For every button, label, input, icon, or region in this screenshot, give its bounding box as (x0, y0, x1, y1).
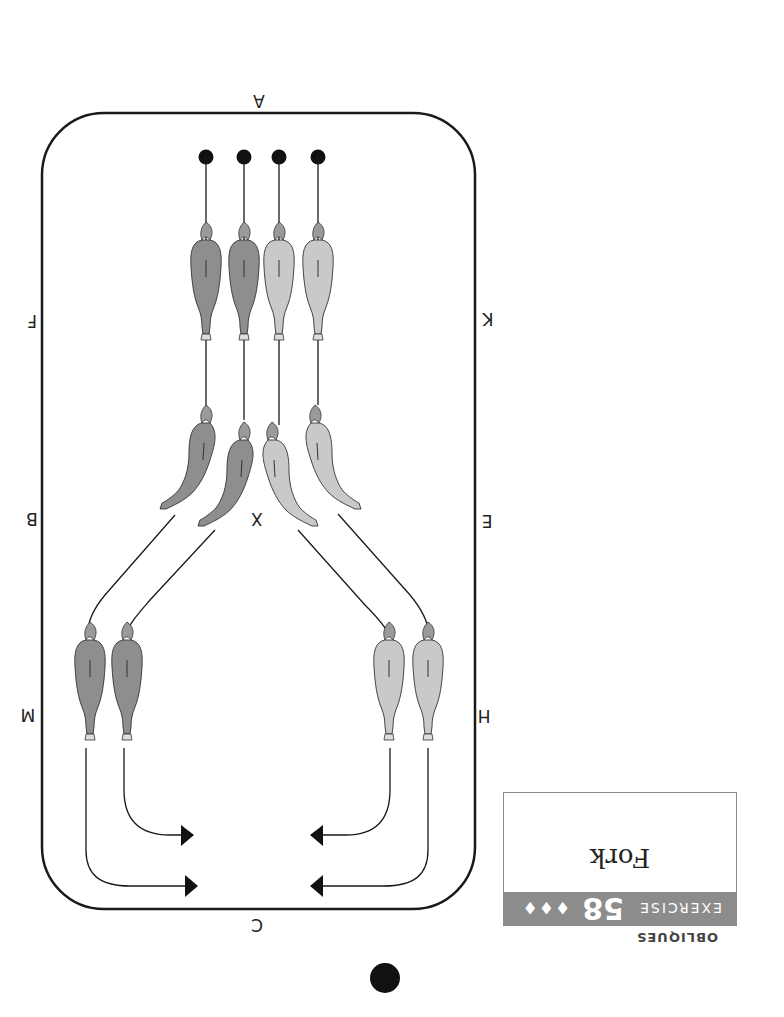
letter-c: C (251, 915, 263, 935)
letter-e: E (482, 511, 493, 531)
exercise-card: EXERCISE 58 ♦♦♦ OBLIQUES Fork (503, 792, 737, 926)
direction-arrows (181, 825, 323, 897)
horse-row-sides (75, 622, 443, 740)
horse-light-2 (303, 222, 333, 340)
horse-dark-2 (229, 222, 259, 340)
horse-row-fork (160, 405, 361, 526)
letter-a: A (253, 91, 265, 111)
exercise-category: OBLIQUES (636, 930, 718, 945)
page-marker-dot (370, 963, 400, 993)
exercise-title: Fork (504, 843, 736, 873)
exercise-number: 58 (582, 891, 624, 926)
letter-k: K (482, 309, 494, 329)
start-markers (199, 150, 326, 165)
letter-x: X (251, 509, 263, 529)
horse-light-1 (264, 222, 294, 340)
letter-m: M (21, 705, 36, 725)
horse-row-start (191, 222, 333, 340)
letter-f: F (27, 311, 37, 331)
letter-b: B (26, 509, 38, 529)
letter-h: H (478, 706, 491, 726)
horse-dark-1 (191, 222, 221, 340)
difficulty-diamonds-icon: ♦♦♦ (522, 899, 571, 919)
exercise-label: EXERCISE (638, 901, 722, 917)
exercise-band: EXERCISE 58 ♦♦♦ (504, 892, 736, 925)
